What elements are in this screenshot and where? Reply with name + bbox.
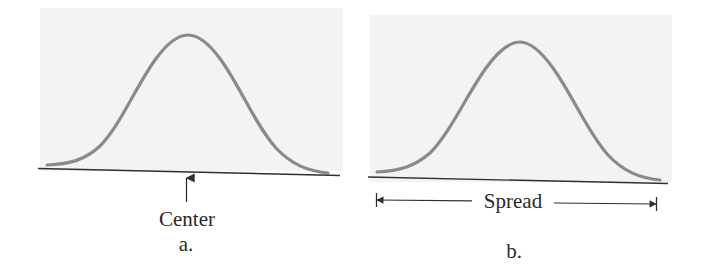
panel-b-annotation-spread: Spread [484, 191, 542, 212]
panel-b [368, 15, 672, 211]
spread-right-arrow [554, 203, 656, 204]
figure-svg [0, 0, 712, 264]
figure: Center a. Spread b. [0, 0, 712, 264]
panel-b-caption: b. [506, 241, 522, 262]
panel-a-shading [40, 8, 343, 171]
panel-a-caption: a. [179, 234, 194, 255]
panel-a-annotation-center: Center [159, 209, 215, 230]
panel-b-shading [370, 15, 672, 182]
panel-a [38, 8, 343, 202]
spread-left-arrow [377, 200, 472, 201]
